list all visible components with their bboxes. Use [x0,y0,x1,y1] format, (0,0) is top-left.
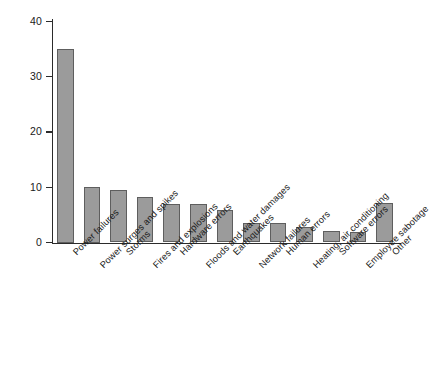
y-tick-label: 20 [18,126,42,137]
y-tick-label: 40 [18,16,42,27]
category-labels-layer: Power failuresPower surges and spikesSto… [52,243,417,376]
y-tick-label: 0 [18,237,42,248]
y-tick-label: 30 [18,71,42,82]
bar [57,49,74,243]
y-tick-label: 10 [18,182,42,193]
